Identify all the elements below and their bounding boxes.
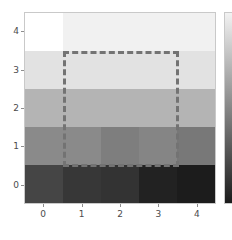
heatmap-cell <box>63 165 101 203</box>
y-tick-label: 1 <box>13 142 19 151</box>
heatmap-cell <box>25 165 63 203</box>
heatmap-cell <box>177 165 215 203</box>
heatmap-cell <box>101 13 139 51</box>
y-tick-label: 4 <box>13 27 19 36</box>
heatmap-cell <box>139 51 177 89</box>
heatmap-grid <box>25 13 215 203</box>
x-tick-mark <box>158 204 159 207</box>
y-tick-label: 0 <box>13 180 19 189</box>
heatmap-cell <box>101 89 139 127</box>
heatmap-cell <box>25 51 63 89</box>
heatmap-cell <box>177 13 215 51</box>
y-tick-mark <box>21 146 24 147</box>
heatmap-cell <box>139 13 177 51</box>
x-tick-mark <box>82 204 83 207</box>
heatmap-cell <box>139 165 177 203</box>
y-tick-mark <box>21 108 24 109</box>
figure-canvas: 01234 01234 <box>0 0 232 240</box>
colorbar <box>224 12 232 204</box>
heatmap-cell <box>25 127 63 165</box>
x-tick-label: 4 <box>194 210 200 219</box>
heatmap-cell <box>25 89 63 127</box>
heatmap-cell <box>63 13 101 51</box>
heatmap-cell <box>101 127 139 165</box>
y-tick-mark <box>21 185 24 186</box>
heatmap-cell <box>63 127 101 165</box>
colorbar-gradient <box>225 13 232 203</box>
y-tick-mark <box>21 70 24 71</box>
heatmap-cell <box>101 51 139 89</box>
y-tick-label: 2 <box>13 104 19 113</box>
heatmap-cell <box>25 13 63 51</box>
y-tick-mark <box>21 31 24 32</box>
heatmap-cell <box>177 89 215 127</box>
heatmap-cell <box>177 127 215 165</box>
x-tick-mark <box>120 204 121 207</box>
x-tick-mark <box>197 204 198 207</box>
heatmap-cell <box>139 89 177 127</box>
heatmap-cell <box>101 165 139 203</box>
x-tick-label: 3 <box>156 210 162 219</box>
heatmap-cell <box>139 127 177 165</box>
x-tick-mark <box>43 204 44 207</box>
heatmap-cell <box>63 89 101 127</box>
y-tick-label: 3 <box>13 65 19 74</box>
heatmap-plot-area <box>24 12 216 204</box>
x-tick-label: 0 <box>40 210 46 219</box>
x-tick-label: 1 <box>79 210 85 219</box>
x-tick-label: 2 <box>117 210 123 219</box>
heatmap-cell <box>63 51 101 89</box>
heatmap-cell <box>177 51 215 89</box>
